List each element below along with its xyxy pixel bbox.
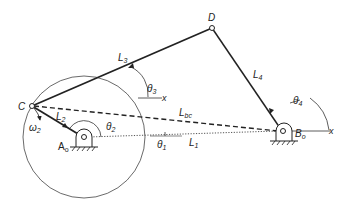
- label-l2: L2: [56, 111, 66, 123]
- label-theta3: θ3: [147, 83, 156, 95]
- label-x-theta4: x: [328, 126, 334, 136]
- label-b0: Bo: [295, 128, 306, 140]
- label-theta1: θ1: [157, 139, 166, 151]
- theta4-arc: [310, 98, 329, 130]
- label-lbc: Lbc: [179, 107, 192, 119]
- label-theta4: θ4: [293, 95, 302, 107]
- theta3-arc: [131, 67, 148, 97]
- label-c: C: [18, 101, 26, 112]
- label-d: D: [208, 12, 215, 23]
- ground-link-l1: [88, 131, 278, 137]
- label-x-theta3: x: [161, 93, 167, 103]
- coupler-link-l3: [32, 28, 212, 106]
- label-theta2: θ2: [106, 121, 115, 133]
- label-l3: L3: [118, 52, 128, 64]
- joint-d: [210, 26, 215, 31]
- label-l1: L1: [189, 137, 199, 149]
- four-bar-linkage-diagram: D C Ao Bo L3 L4 L2 Lbc L1 θ1 θ2 θ3 θ4 ω2…: [0, 0, 350, 207]
- joint-c: [30, 104, 35, 109]
- label-omega2: ω2: [29, 122, 41, 134]
- label-a0: Ao: [58, 141, 69, 153]
- ground-pivot-b0: [270, 123, 298, 145]
- label-l4: L4: [253, 69, 263, 81]
- rocker-link-l4: [212, 28, 282, 131]
